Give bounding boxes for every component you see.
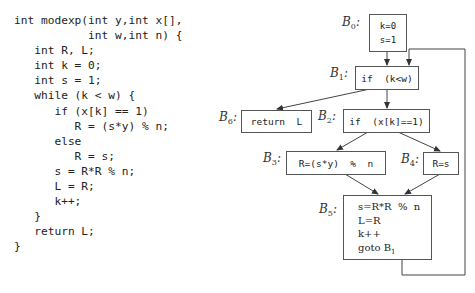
block-label-b4: B4: [401, 152, 419, 168]
block-b4: R=s [423, 152, 459, 175]
block-b5-goto: goto B1 [358, 241, 395, 260]
block-label-b6: B6: [219, 110, 237, 126]
block-label-b2: B2: [318, 109, 336, 125]
block-b1: if (k<w) [355, 66, 419, 90]
block-label-b0: B0: [342, 15, 360, 31]
edge-b3-b5 [345, 174, 378, 194]
block-label-b3: B3: [263, 151, 281, 167]
block-b5: s=R*R % n L=R k++ goto B1 [343, 195, 432, 260]
block-b0-line: k=0 [380, 19, 396, 33]
block-b0-line: s=1 [380, 33, 396, 47]
edge-b1-b6 [277, 89, 370, 109]
edge-b4-b5 [405, 174, 440, 194]
block-b5-line: k++ [358, 227, 381, 241]
block-b6: return L [241, 110, 312, 133]
block-label-b1: B1: [330, 66, 348, 82]
block-b5-line: s=R*R % n [358, 200, 420, 214]
block-b5-line: L=R [358, 214, 381, 228]
block-label-b5: B5: [319, 202, 337, 218]
block-b0: k=0 s=1 [369, 14, 407, 52]
block-b3: R=(s*y) % n [286, 151, 386, 175]
edge-b2-b3 [337, 132, 368, 150]
edge-b2-b4 [398, 132, 440, 151]
block-b2: if (x[k]==1) [343, 109, 430, 133]
